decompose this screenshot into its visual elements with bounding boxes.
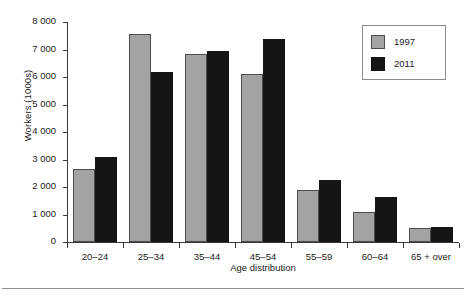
x-tick: [67, 243, 68, 248]
legend-swatch-2011: [371, 57, 385, 71]
y-tick-label: 0: [51, 235, 56, 246]
bar-1997-55–59: [297, 190, 319, 242]
x-axis-line: [67, 242, 459, 243]
bar-group: [129, 22, 173, 242]
legend-swatch-1997: [371, 35, 385, 49]
legend-item-2011: 2011: [371, 55, 437, 72]
bar-2011-60–64: [375, 197, 397, 242]
y-tick: 7 000: [63, 50, 68, 51]
bar-1997-60–64: [353, 212, 375, 242]
y-tick: 2 000: [63, 187, 68, 188]
y-tick: 5 000: [63, 105, 68, 106]
y-tick-label: 1 000: [32, 208, 56, 219]
y-tick-label: 6 000: [32, 70, 56, 81]
y-axis-title: Workers (1000s): [22, 36, 33, 176]
x-tick: [347, 243, 348, 248]
y-tick-label: 2 000: [32, 180, 56, 191]
bar-group: [241, 22, 285, 242]
bar-1997-25–34: [129, 34, 151, 242]
bar-1997-35–44: [185, 54, 207, 242]
bar-1997-20–24: [73, 169, 95, 242]
x-tick: [179, 243, 180, 248]
x-tick: [291, 243, 292, 248]
x-tick: [123, 243, 124, 248]
bar-2011-45–54: [263, 39, 285, 243]
y-tick: 4 000: [63, 132, 68, 133]
y-tick-label: 3 000: [32, 153, 56, 164]
bar-group: [185, 22, 229, 242]
x-tick: [235, 243, 236, 248]
y-tick-label: 5 000: [32, 98, 56, 109]
bar-2011-35–44: [207, 51, 229, 242]
bar-2011-55–59: [319, 180, 341, 242]
bar-chart-figure: Workers (1000s) 01 0002 0003 0004 0005 0…: [0, 0, 466, 299]
y-tick-label: 7 000: [32, 43, 56, 54]
bar-2011-65 + over: [431, 227, 453, 242]
x-axis-title: Age distribution: [67, 262, 459, 273]
legend-label-1997: 1997: [394, 36, 415, 47]
y-tick: 8 000: [63, 22, 68, 23]
bar-1997-45–54: [241, 74, 263, 242]
y-tick-label: 4 000: [32, 125, 56, 136]
bar-group: [297, 22, 341, 242]
x-tick: [459, 243, 460, 248]
bar-1997-65 + over: [409, 228, 431, 242]
x-tick: [403, 243, 404, 248]
legend-item-1997: 1997: [371, 33, 437, 50]
legend: 1997 2011: [362, 25, 446, 80]
bottom-divider: [2, 288, 464, 289]
y-tick: 6 000: [63, 77, 68, 78]
bar-2011-20–24: [95, 157, 117, 242]
y-tick: 1 000: [63, 215, 68, 216]
bar-2011-25–34: [151, 72, 173, 243]
y-tick: 3 000: [63, 160, 68, 161]
legend-label-2011: 2011: [394, 58, 414, 69]
y-tick-label: 8 000: [32, 15, 56, 26]
bar-group: [73, 22, 117, 242]
category-label: 65 + over: [386, 251, 466, 262]
